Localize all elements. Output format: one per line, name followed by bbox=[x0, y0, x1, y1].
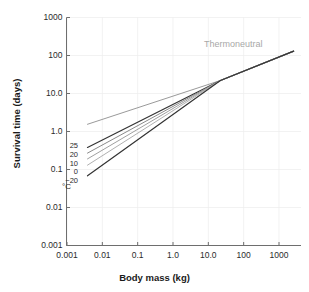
x-tick-label: 0.1 bbox=[118, 250, 158, 260]
y-tick-label: 0.001 bbox=[19, 240, 63, 250]
y-tick-label: 0.01 bbox=[19, 202, 63, 212]
y-tick-label: 100 bbox=[19, 50, 63, 60]
x-tick-label: 0.01 bbox=[82, 250, 122, 260]
thermoneutral-annotation: Thermoneutral bbox=[204, 39, 263, 49]
series-label-20: 20 bbox=[56, 151, 78, 159]
y-tick-label: 1000 bbox=[19, 12, 63, 22]
series-label-0: 0 bbox=[56, 168, 78, 176]
x-tick-label: 1000 bbox=[259, 250, 299, 260]
gridlines bbox=[67, 18, 302, 246]
x-tick-label: 100 bbox=[224, 250, 264, 260]
temperature-unit-label: °C bbox=[62, 182, 71, 191]
y-tick-label: 10.0 bbox=[19, 88, 63, 98]
y-tick-label: 1.0 bbox=[19, 126, 63, 136]
series-label-25: 25 bbox=[56, 142, 78, 150]
x-tick-label: 1.0 bbox=[153, 250, 193, 260]
chart-figure: Survival time (days) Body mass (kg) 0.00… bbox=[0, 0, 309, 292]
x-tick-label: 10.0 bbox=[188, 250, 228, 260]
x-axis-title: Body mass (kg) bbox=[0, 272, 309, 283]
data-series bbox=[87, 51, 293, 176]
x-tick-label: 0.001 bbox=[47, 250, 87, 260]
